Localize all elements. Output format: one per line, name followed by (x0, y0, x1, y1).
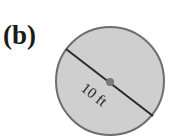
circle-diagram: 10 ft (0, 0, 172, 138)
center-dot (106, 78, 114, 86)
